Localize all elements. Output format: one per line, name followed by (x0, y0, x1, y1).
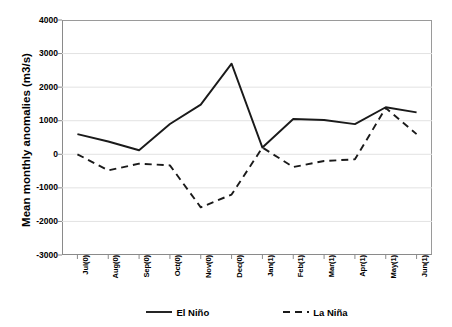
x-tick-label: Feb(1) (296, 255, 305, 299)
legend-entry-la-ni-a[interactable]: La Niña (283, 307, 347, 318)
plot-series-layer (62, 20, 432, 255)
y-tick-label: -1000 (22, 183, 58, 192)
x-tick-label: Nov(0) (204, 255, 213, 299)
y-tick-label: -2000 (22, 217, 58, 226)
y-tick-label: 2000 (22, 83, 58, 92)
legend-entry-el-ni-o[interactable]: El Niño (146, 307, 209, 318)
legend-swatch-la-ni-a (283, 307, 309, 317)
y-tick-label: 1000 (22, 116, 58, 125)
x-tick-label: May(1) (389, 255, 398, 299)
y-tick-label: 3000 (22, 49, 58, 58)
x-tick-label: Dec(0) (235, 255, 244, 299)
chart-legend: El NiñoLa Niña (62, 302, 432, 322)
x-axis-tick-labels: Jul(0)Aug(0)Sep(0)Oct(0)Nov(0)Dec(0)Jan(… (62, 255, 432, 303)
legend-swatch-el-ni-o (146, 307, 172, 317)
x-tick-label: Sep(0) (142, 255, 151, 299)
series-line-la-ni-a (77, 108, 416, 207)
x-tick-label: Jan(1) (266, 255, 275, 299)
x-tick-label: Mar(1) (327, 255, 336, 299)
line-chart: Mean monthly anomalies (m3/s) 4000300020… (0, 0, 452, 327)
legend-label-el-ni-o: El Niño (176, 307, 209, 318)
y-tick-label: 4000 (22, 16, 58, 25)
legend-label-la-ni-a: La Niña (313, 307, 347, 318)
y-tick-label: 0 (22, 150, 58, 159)
x-tick-label: Apr(1) (358, 255, 367, 299)
x-tick-label: Jun(1) (420, 255, 429, 299)
y-tick-label: -3000 (22, 251, 58, 260)
x-tick-label: Oct(0) (173, 255, 182, 299)
series-line-el-ni-o (77, 64, 416, 151)
x-tick-label: Jul(0) (81, 255, 90, 299)
y-axis-tick-labels: 40003000200010000-1000-2000-3000 (20, 0, 58, 327)
x-tick-label: Aug(0) (111, 255, 120, 299)
